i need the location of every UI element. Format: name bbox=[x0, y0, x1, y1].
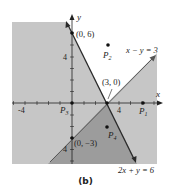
label-0-neg3: (0, −3) bbox=[74, 138, 97, 148]
point-p4 bbox=[105, 125, 109, 129]
tick-label-x-4: 4 bbox=[117, 106, 121, 115]
label-line2: 2x + y = 6 bbox=[118, 165, 155, 175]
label-0-6: (0, 6) bbox=[76, 29, 95, 39]
point-p1 bbox=[141, 101, 145, 105]
tick-label-y-4: 4 bbox=[63, 53, 67, 62]
tick-label-x-neg4: -4 bbox=[18, 106, 25, 115]
x-axis-label: x bbox=[155, 89, 160, 99]
label-line1: x − y = 3 bbox=[125, 45, 158, 55]
point-p3 bbox=[70, 101, 74, 105]
y-axis-arrow-icon bbox=[70, 14, 75, 20]
point-p2 bbox=[106, 43, 110, 47]
inequality-graph: y x -4 4 4 4 (0, 6) (3, 0) (0, −3) x − y… bbox=[0, 0, 171, 190]
figure-caption: (b) bbox=[0, 176, 171, 186]
point-0-6 bbox=[70, 31, 74, 35]
tick-label-y-neg4: 4 bbox=[63, 145, 67, 154]
point-3-0 bbox=[105, 101, 109, 105]
y-axis-label: y bbox=[76, 12, 81, 22]
label-3-0: (3, 0) bbox=[102, 77, 121, 87]
